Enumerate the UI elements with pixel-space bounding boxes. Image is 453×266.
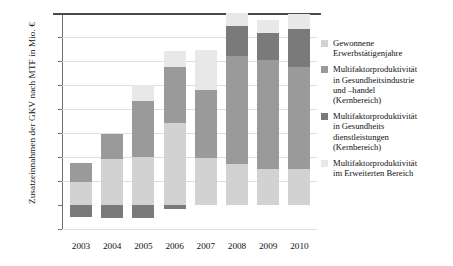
bar-segment <box>257 33 279 60</box>
bar-segment <box>70 182 92 205</box>
legend-item[interactable]: Multifaktorproduktivität in Gesundheits­… <box>321 111 453 152</box>
bar-segment <box>226 13 248 26</box>
bar-segment <box>132 157 154 205</box>
bar-segment <box>164 67 186 123</box>
legend-item[interactable]: Multifaktorproduktivität in Gesundheitsi… <box>321 64 453 105</box>
bar-series-layer <box>62 13 317 229</box>
legend-label: Multifaktorproduktivität in Gesundheitsi… <box>333 64 417 105</box>
x-tick-label: 2010 <box>279 241 319 251</box>
bar-segment-negative <box>132 205 154 218</box>
bar-segment <box>70 163 92 182</box>
bar-column[interactable] <box>132 13 154 229</box>
bar-column[interactable] <box>257 13 279 229</box>
legend-label: Gewonnene Erwerbstätigenjahre <box>333 38 402 58</box>
legend-label: Multifaktorproduktivität in Gesundheits­… <box>333 111 417 152</box>
bar-segment <box>226 56 248 164</box>
bar-segment <box>288 67 310 169</box>
bar-segment <box>226 26 248 56</box>
bar-segment <box>288 29 310 67</box>
bar-segment <box>257 60 279 169</box>
bar-segment-negative <box>70 205 92 217</box>
bar-segment <box>101 134 123 159</box>
bar-segment <box>195 158 217 205</box>
bar-segment <box>257 169 279 205</box>
legend-swatch <box>321 40 328 47</box>
bar-column[interactable] <box>195 13 217 229</box>
bar-segment-negative <box>164 205 186 209</box>
bar-column[interactable] <box>101 13 123 229</box>
bar-column[interactable] <box>164 13 186 229</box>
plot-area: -20002004006008001.0001.2001.4001.600 20… <box>62 13 317 229</box>
bar-segment <box>164 51 186 67</box>
bar-segment <box>195 50 217 90</box>
gridline <box>62 229 317 230</box>
y-axis-title: Zusatzeinnahmen der GKV nach MTF in Mio.… <box>27 3 37 223</box>
bar-segment <box>132 101 154 157</box>
bar-segment <box>132 85 154 101</box>
legend-swatch <box>321 66 328 73</box>
stacked-bar-chart: Zusatzeinnahmen der GKV nach MTF in Mio.… <box>0 0 453 266</box>
bar-segment <box>226 164 248 205</box>
legend-item[interactable]: Multifaktorproduktivität im Erweiterten … <box>321 158 453 178</box>
legend-label: Multifaktorproduktivität im Erweiterten … <box>333 158 417 178</box>
y-axis-tick <box>58 229 62 230</box>
legend-swatch <box>321 113 328 120</box>
bar-segment <box>164 123 186 205</box>
bar-segment <box>195 90 217 158</box>
legend: Gewonnene ErwerbstätigenjahreMultifaktor… <box>321 38 453 184</box>
bar-column[interactable] <box>70 13 92 229</box>
bar-column[interactable] <box>288 13 310 229</box>
legend-item[interactable]: Gewonnene Erwerbstätigenjahre <box>321 38 453 58</box>
bar-segment <box>288 169 310 205</box>
bar-column[interactable] <box>226 13 248 229</box>
bar-segment <box>101 159 123 205</box>
bar-segment <box>288 14 310 29</box>
bar-segment-negative <box>101 205 123 218</box>
legend-swatch <box>321 160 328 167</box>
bar-segment <box>257 20 279 33</box>
